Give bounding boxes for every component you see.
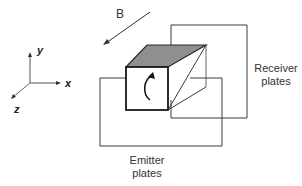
cube-front-face	[126, 67, 168, 110]
receiver-plates-label: Receiver plates	[250, 62, 302, 88]
emitter-plates-label: Emitter plates	[122, 154, 172, 180]
b-field-arrow	[106, 12, 150, 43]
cube-right-bottom-edge	[168, 87, 206, 110]
z-axis-label: z	[14, 103, 20, 115]
y-arrowhead-icon	[28, 52, 32, 57]
b-field-label: B	[116, 8, 124, 21]
x-arrowhead-icon	[56, 81, 61, 85]
z-axis	[13, 83, 30, 97]
receiver-plate-wire	[171, 25, 247, 118]
y-axis-label: y	[37, 44, 43, 56]
x-axis-label: x	[65, 77, 71, 89]
b-field-arrowhead-icon	[103, 39, 110, 45]
cube-top-face	[126, 45, 206, 67]
